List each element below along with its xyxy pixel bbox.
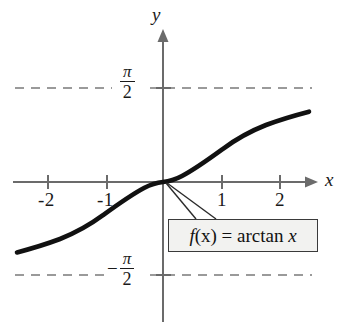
function-callout-text: f(x) = arctan x bbox=[189, 225, 296, 247]
y-axis-label: y bbox=[152, 5, 160, 24]
lower-label-denominator: 2 bbox=[120, 269, 135, 288]
function-callout-box: f(x) = arctan x bbox=[168, 219, 318, 252]
lower-label-minus-sign: − bbox=[107, 259, 118, 278]
y-axis-upper-asymptote-label: π 2 bbox=[118, 63, 135, 101]
x-axis-label: x bbox=[325, 170, 333, 189]
x-axis-arrowhead bbox=[305, 177, 318, 188]
x-tick-label-pos2: 2 bbox=[275, 190, 285, 209]
plot-canvas bbox=[0, 0, 350, 327]
x-tick-label-pos1: 1 bbox=[217, 190, 227, 209]
upper-label-fraction: π 2 bbox=[120, 63, 135, 101]
arctan-graph-figure: y x -2 -1 1 2 π 2 − π 2 f(x) = arctan x bbox=[0, 0, 350, 327]
callout-arctan-name: arctan bbox=[237, 225, 283, 246]
y-axis-arrowhead bbox=[158, 29, 169, 42]
lower-label-fraction: π 2 bbox=[120, 250, 135, 288]
y-axis-lower-asymptote-label: − π 2 bbox=[107, 250, 134, 288]
x-tick-label-neg1: -1 bbox=[97, 190, 114, 209]
callout-function-argument: (x) bbox=[195, 225, 217, 246]
upper-label-denominator: 2 bbox=[120, 82, 135, 101]
x-tick-label-neg2: -2 bbox=[38, 190, 55, 209]
callout-equals-sign: = bbox=[217, 225, 237, 246]
upper-label-numerator: π bbox=[120, 63, 135, 82]
callout-variable: x bbox=[288, 225, 296, 246]
lower-label-numerator: π bbox=[120, 250, 135, 269]
